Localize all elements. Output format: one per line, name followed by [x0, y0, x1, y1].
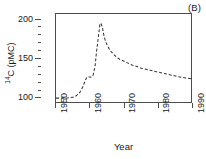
y-axis-title-superscript: 14 [4, 76, 11, 83]
plot-area [55, 13, 192, 103]
y-tick-minor [38, 42, 41, 43]
y-tick-major-200 [35, 19, 41, 20]
x-axis-ticks: 19501960197019801990 [0, 103, 206, 113]
y-tick-minor [38, 66, 41, 67]
x-tick-major-1960 [89, 103, 90, 108]
y-axis-title-main: C (pMC) [6, 42, 16, 76]
y-tick-minor [38, 82, 41, 83]
x-tick-label-1960: 1960 [94, 93, 103, 113]
y-tick-major-150 [35, 58, 41, 59]
y-tick-major-100 [35, 97, 41, 98]
x-tick-label-1950: 1950 [60, 93, 69, 113]
data-series-line [56, 23, 191, 98]
y-tick-minor [38, 26, 41, 27]
panel-label: (B) [188, 2, 201, 13]
x-tick-major-1990 [192, 103, 193, 108]
y-tick-minor [38, 50, 41, 51]
y-tick-label-100: 100 [18, 93, 33, 102]
y-tick-minor [38, 90, 41, 91]
x-tick-major-1950 [55, 103, 56, 108]
y-tick-label-150: 150 [18, 54, 33, 63]
x-tick-major-1970 [124, 103, 125, 108]
x-axis-title: Year [55, 141, 192, 152]
x-tick-label-1990: 1990 [197, 93, 206, 113]
y-tick-label-200: 200 [18, 14, 33, 23]
curve-svg [56, 14, 191, 102]
y-tick-minor [38, 34, 41, 35]
figure-panel-b: (B) 200150100 14C (pMC) 1950196019701980… [0, 0, 206, 159]
x-tick-label-1980: 1980 [162, 93, 171, 113]
y-axis-title: 14C (pMC) [6, 30, 16, 96]
x-tick-major-1980 [158, 103, 159, 108]
x-tick-label-1970: 1970 [128, 93, 137, 113]
y-tick-minor [38, 74, 41, 75]
